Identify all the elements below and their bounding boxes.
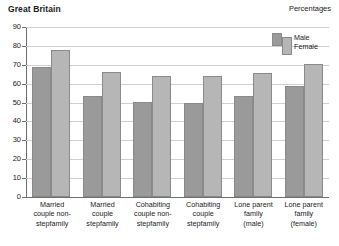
y-tick-label: 90: [13, 22, 21, 32]
chart-legend: Male Female: [272, 33, 336, 59]
y-tick-label: 10: [13, 173, 21, 183]
y-axis-ticks: 0102030405060708090: [0, 27, 26, 197]
bar-female[interactable]: [203, 76, 222, 197]
bar-female[interactable]: [253, 73, 272, 197]
x-axis-label: Cohabitingcouple non-stepfamily: [128, 200, 178, 228]
units-label: Percentages: [289, 4, 331, 13]
bar-female[interactable]: [102, 72, 121, 197]
x-axis-labels: Marriedcouple non-stepfamilyMarriedcoupl…: [27, 200, 329, 228]
x-axis-label: Lone parentfamily(male): [228, 200, 278, 228]
x-axis-label: Marriedcouple non-stepfamily: [27, 200, 77, 228]
bar-male[interactable]: [133, 102, 152, 197]
chart-figure: Great Britain Percentages 01020304050607…: [0, 0, 339, 246]
legend-swatch-female: [282, 37, 292, 55]
bar-group: [77, 27, 128, 197]
y-tick-label: 70: [13, 60, 21, 70]
x-axis-label: Cohabitingcouplestepfamily: [178, 200, 228, 228]
bar-female[interactable]: [51, 50, 70, 197]
legend-swatch-male: [272, 33, 282, 46]
chart-header: Great Britain Percentages: [8, 4, 331, 18]
y-tick-label: 50: [13, 98, 21, 108]
bar-female[interactable]: [152, 76, 171, 197]
bar-male[interactable]: [83, 96, 102, 197]
y-tick-label: 20: [13, 154, 21, 164]
bar-female[interactable]: [304, 64, 323, 197]
bar-group: [228, 27, 279, 197]
x-axis-label: Marriedcouplestepfamily: [77, 200, 127, 228]
y-tick-label: 60: [13, 79, 21, 89]
y-tick-label: 40: [13, 116, 21, 126]
x-axis-label: Lone parentfamily(female): [279, 200, 329, 228]
bar-male[interactable]: [234, 96, 253, 197]
bar-group: [26, 27, 77, 197]
y-tick-label: 30: [13, 135, 21, 145]
legend-label-male: Male: [294, 33, 310, 42]
bar-male[interactable]: [184, 103, 203, 197]
chart-title: Great Britain: [8, 4, 61, 14]
bar-male[interactable]: [32, 67, 51, 197]
gridline-0: [26, 197, 329, 198]
legend-label-female: Female: [294, 42, 318, 51]
bar-group: [178, 27, 229, 197]
bar-group: [127, 27, 178, 197]
y-tick-label: 80: [13, 41, 21, 51]
y-tick-label: 0: [17, 192, 21, 202]
bar-male[interactable]: [285, 86, 304, 197]
